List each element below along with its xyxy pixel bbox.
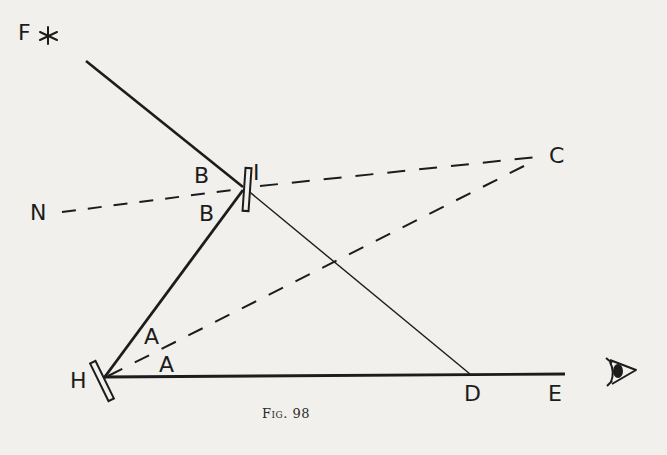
optics-figure: F N I C H D E B B A A Fig. 98	[0, 0, 667, 455]
dashed-I-to-C	[260, 157, 537, 186]
point-label-H: H	[70, 370, 87, 392]
point-label-F: F	[18, 22, 31, 44]
mirror-H	[90, 361, 114, 401]
angle-label-B-lower: B	[199, 203, 214, 225]
angle-label-B-upper: B	[194, 165, 209, 187]
angle-label-A-upper: A	[144, 326, 159, 348]
ray-F-to-I	[86, 61, 243, 187]
point-label-N: N	[30, 202, 46, 224]
ray-diagram	[0, 0, 667, 455]
figure-caption: Fig. 98	[262, 406, 310, 421]
star-icon	[40, 27, 57, 44]
point-label-E: E	[548, 383, 562, 405]
mirror-I	[243, 168, 252, 211]
eye-icon	[606, 358, 636, 386]
dashed-H-to-C	[108, 164, 528, 376]
ray-I-to-H	[104, 190, 243, 378]
point-label-C: C	[549, 145, 564, 167]
angle-label-A-lower: A	[159, 354, 174, 376]
point-label-D: D	[464, 383, 481, 405]
point-label-I: I	[253, 162, 260, 184]
ray-I-to-D	[246, 189, 470, 374]
